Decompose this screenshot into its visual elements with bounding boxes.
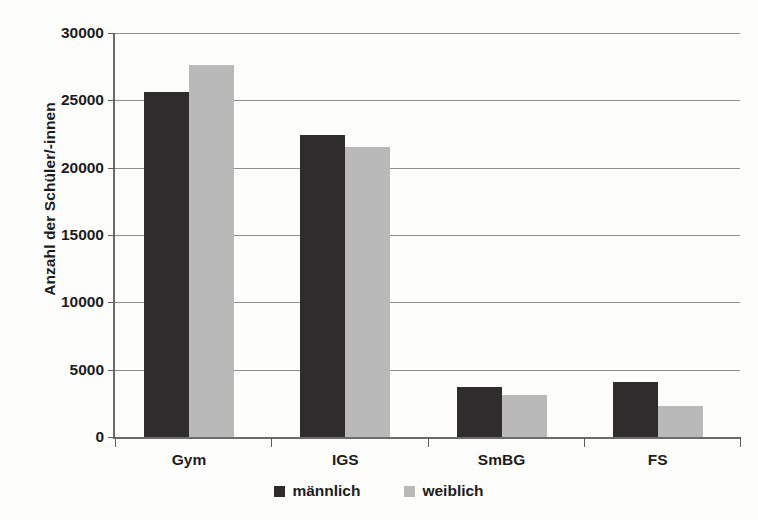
y-tick-label: 10000 xyxy=(61,293,104,311)
y-tick-mark xyxy=(108,168,115,169)
legend-label-maennlich: männlich xyxy=(292,482,360,500)
bar-smbg-männlich xyxy=(457,387,502,437)
plot-area: 050001000015000200002500030000GymIGSSmBG… xyxy=(113,33,740,439)
y-tick-label: 15000 xyxy=(61,226,104,244)
y-axis-title: Anzahl der Schüler/-innen xyxy=(41,0,59,409)
legend-swatch-icon-maennlich xyxy=(274,486,285,497)
gridline xyxy=(115,33,740,34)
x-category-label-smbg: SmBG xyxy=(478,451,525,469)
y-tick-label: 5000 xyxy=(70,361,104,379)
y-tick-mark xyxy=(108,370,115,371)
bar-igs-weiblich xyxy=(345,147,390,437)
chart-legend: männlich weiblich xyxy=(0,482,758,500)
x-tick-mark xyxy=(584,437,585,447)
y-tick-mark xyxy=(108,100,115,101)
x-category-label-fs: FS xyxy=(648,451,668,469)
x-tick-mark-origin xyxy=(115,437,116,447)
bar-fs-männlich xyxy=(613,382,658,437)
y-tick-label: 0 xyxy=(95,428,104,446)
chart-page: Anzahl der Schüler/-innen 05000100001500… xyxy=(0,0,758,520)
legend-swatch-icon-weiblich xyxy=(404,486,415,497)
x-category-label-igs: IGS xyxy=(332,451,359,469)
x-tick-mark xyxy=(740,437,741,447)
legend-item-maennlich[interactable]: männlich xyxy=(274,482,360,500)
bar-igs-männlich xyxy=(300,135,345,437)
y-tick-mark xyxy=(108,33,115,34)
bar-smbg-weiblich xyxy=(502,395,547,437)
legend-item-weiblich[interactable]: weiblich xyxy=(404,482,483,500)
bar-gym-männlich xyxy=(144,92,189,437)
y-tick-label: 20000 xyxy=(61,159,104,177)
x-category-label-gym: Gym xyxy=(172,451,206,469)
y-tick-label: 25000 xyxy=(61,91,104,109)
x-tick-mark xyxy=(428,437,429,447)
y-tick-mark xyxy=(108,302,115,303)
y-tick-label: 30000 xyxy=(61,24,104,42)
y-tick-mark xyxy=(108,437,115,438)
legend-label-weiblich: weiblich xyxy=(422,482,483,500)
bar-gym-weiblich xyxy=(189,65,234,437)
x-tick-mark xyxy=(271,437,272,447)
bar-fs-weiblich xyxy=(658,406,703,437)
y-tick-mark xyxy=(108,235,115,236)
